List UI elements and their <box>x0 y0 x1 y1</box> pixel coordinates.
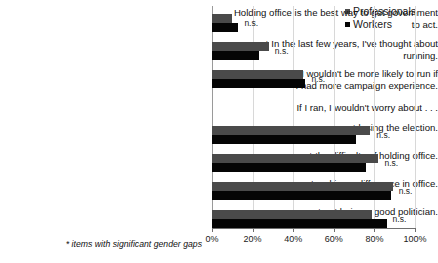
significance-annotation: n.s. <box>311 74 325 84</box>
bar-group: n.s. <box>212 154 415 172</box>
significance-annotation: n.s. <box>376 130 390 140</box>
bar-group <box>212 98 415 116</box>
bar-workers <box>212 79 305 88</box>
bar-group: n.s. <box>212 182 415 200</box>
bar-professionals <box>212 42 269 51</box>
x-tick-label: 60% <box>325 234 343 244</box>
bar-group: n.s. <box>212 14 415 32</box>
bar-workers <box>212 135 356 144</box>
bar-group: n.s. <box>212 70 415 88</box>
significance-annotation: n.s. <box>275 46 289 56</box>
x-tick-mark <box>253 228 254 232</box>
bar-professionals <box>212 14 232 23</box>
bar-professionals <box>212 182 393 191</box>
bar-workers <box>212 219 387 228</box>
x-tick-mark <box>334 228 335 232</box>
x-tick-label: 20% <box>244 234 262 244</box>
x-axis-line <box>212 228 416 229</box>
bar-professionals <box>212 154 378 163</box>
plot-area: n.s.n.s.n.s.n.s.n.s.n.s.n.s. 0%20%40%60%… <box>212 6 415 228</box>
x-tick-label: 40% <box>284 234 302 244</box>
significance-annotation: n.s. <box>393 214 407 224</box>
chart-container: Professionals Workers Holding office is … <box>0 0 438 263</box>
x-tick-label: 0% <box>205 234 218 244</box>
x-tick-mark <box>374 228 375 232</box>
chart-footnote: * items with significant gender gaps <box>0 239 202 249</box>
x-tick-label: 80% <box>365 234 383 244</box>
x-tick-mark <box>415 228 416 232</box>
bar-professionals <box>212 126 370 135</box>
significance-annotation: n.s. <box>399 186 413 196</box>
x-tick-mark <box>293 228 294 232</box>
bar-workers <box>212 191 391 200</box>
bar-workers <box>212 51 259 60</box>
bar-professionals <box>212 70 303 79</box>
significance-annotation: n.s. <box>384 158 398 168</box>
bar-workers <box>212 163 366 172</box>
gridline-100% <box>415 6 416 228</box>
bar-group: n.s. <box>212 42 415 60</box>
significance-annotation: n.s. <box>244 18 258 28</box>
x-tick-label: 100% <box>403 234 426 244</box>
bar-workers <box>212 23 238 32</box>
bar-group: n.s. <box>212 210 415 228</box>
bar-professionals <box>212 210 372 219</box>
x-tick-mark <box>212 228 213 232</box>
bar-group: n.s. <box>212 126 415 144</box>
